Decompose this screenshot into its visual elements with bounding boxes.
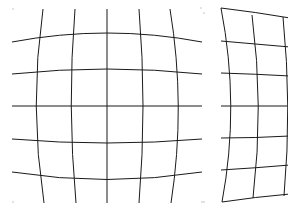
distortion-diagram	[0, 0, 288, 211]
corner-marker	[200, 7, 202, 9]
corner-marker	[12, 201, 14, 203]
horizontal-grid-line	[221, 165, 288, 170]
barrel-distortion-grid	[12, 7, 203, 203]
diagram-svg	[0, 0, 288, 211]
horizontal-grid-line	[222, 194, 288, 202]
horizontal-grid-line	[221, 73, 288, 76]
pincushion-distortion-grid	[203, 8, 288, 203]
corner-marker	[201, 201, 203, 203]
horizontal-grid-line	[221, 136, 288, 138]
horizontal-grid-line	[221, 8, 288, 18]
corner-marker	[203, 201, 205, 203]
corner-marker	[203, 12, 205, 14]
corner-marker	[12, 8, 14, 10]
horizontal-grid-line	[221, 41, 288, 47]
vertical-grid-line	[221, 8, 231, 202]
